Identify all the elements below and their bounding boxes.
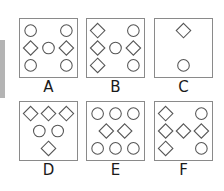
circle-shape xyxy=(61,60,73,72)
option-panel-a[interactable] xyxy=(19,18,78,78)
circle-shape xyxy=(128,60,140,72)
diamond-shape xyxy=(90,23,104,37)
circle-shape xyxy=(25,25,37,37)
diamond-shape xyxy=(158,141,172,155)
diamond-shape xyxy=(117,124,131,138)
option-label-b: B xyxy=(86,80,145,95)
side-tab-bar xyxy=(0,40,5,98)
circle-shape xyxy=(110,108,122,120)
circle-shape xyxy=(43,42,55,54)
circle-shape xyxy=(196,108,208,120)
option-panel-c[interactable] xyxy=(154,18,213,78)
option-label-f: F xyxy=(154,163,213,178)
diamond-shape xyxy=(90,41,104,55)
diamond-shape xyxy=(41,106,55,120)
diamond-shape xyxy=(158,106,172,120)
circle-shape xyxy=(61,25,73,37)
option-label-d: D xyxy=(19,163,78,178)
diamond-shape xyxy=(158,124,172,138)
circle-shape xyxy=(196,143,208,155)
diamond-shape xyxy=(23,106,37,120)
option-label-a: A xyxy=(19,80,78,95)
circle-shape xyxy=(178,60,190,72)
circle-shape xyxy=(52,125,64,137)
diamond-shape xyxy=(41,141,55,155)
circle-shape xyxy=(34,125,46,137)
circle-shape xyxy=(110,143,122,155)
diamond-shape xyxy=(90,58,104,72)
circle-shape xyxy=(110,42,122,54)
diamond-shape xyxy=(126,41,140,55)
diamond-shape xyxy=(99,124,113,138)
option-panel-d[interactable] xyxy=(19,101,78,161)
circle-shape xyxy=(92,108,104,120)
option-panel-b[interactable] xyxy=(86,18,145,78)
diamond-shape xyxy=(194,124,208,138)
circle-shape xyxy=(128,108,140,120)
circle-shape xyxy=(128,25,140,37)
diamond-shape xyxy=(176,23,190,37)
option-label-c: C xyxy=(154,80,213,95)
circle-shape xyxy=(92,143,104,155)
option-panel-e[interactable] xyxy=(86,101,145,161)
circle-shape xyxy=(128,143,140,155)
diamond-shape xyxy=(59,41,73,55)
diamond-shape xyxy=(59,106,73,120)
diamond-shape xyxy=(23,41,37,55)
option-panel-f[interactable] xyxy=(154,101,213,161)
diamond-shape xyxy=(176,124,190,138)
circle-shape xyxy=(25,60,37,72)
option-label-e: E xyxy=(86,163,145,178)
